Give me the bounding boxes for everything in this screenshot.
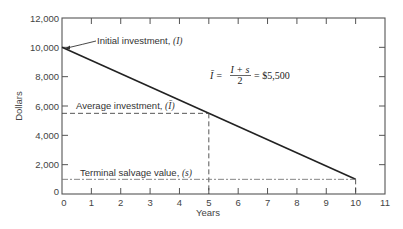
svg-text:= $5,500: = $5,500	[254, 70, 290, 81]
x-tick-label: 11	[380, 197, 390, 208]
x-tick-label: 7	[265, 197, 270, 208]
x-axis-title: Years	[196, 207, 220, 218]
svg-text:I + s: I + s	[230, 64, 250, 75]
initial-investment-arrow	[67, 41, 96, 48]
x-tick-label: 3	[147, 197, 152, 208]
y-tick-label: 0	[54, 186, 59, 197]
x-tick-label: 8	[294, 197, 299, 208]
x-tick-label: 6	[236, 197, 241, 208]
average-investment-formula: Ī = I + s 2 = $5,500	[209, 64, 290, 86]
x-tick-label: 10	[350, 197, 361, 208]
initial-investment-label: Initial investment, (I)	[97, 35, 183, 47]
x-tick-label: 1	[89, 197, 94, 208]
chart: 0123456789101102,0004,0006,0008,00010,00…	[0, 0, 403, 229]
y-tick-label: 10,000	[30, 42, 59, 53]
x-tick-label: 9	[324, 197, 329, 208]
average-investment-label: Average investment, (Ī)	[76, 100, 175, 112]
x-tick-label: 0	[61, 197, 66, 208]
y-tick-label: 6,000	[35, 101, 59, 112]
svg-text:2: 2	[238, 75, 243, 86]
x-tick-label: 2	[118, 197, 123, 208]
svg-text:Ī =: Ī =	[209, 70, 223, 81]
y-axis-title: Dollars	[13, 91, 24, 121]
x-tick-label: 4	[177, 197, 182, 208]
y-tick-label: 8,000	[35, 71, 59, 82]
y-tick-label: 2,000	[35, 159, 59, 170]
y-tick-label: 12,000	[30, 13, 59, 24]
terminal-salvage-label: Terminal salvage value, (s)	[80, 167, 192, 179]
y-tick-label: 4,000	[35, 130, 59, 141]
